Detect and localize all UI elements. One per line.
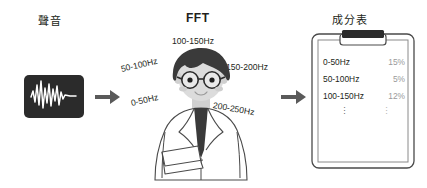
right-arrow-icon xyxy=(95,88,121,106)
band-percent: 15% xyxy=(388,57,405,67)
diagram-canvas: 聲音 FFT 成分表 100-150Hz 50-100Hz 0-50Hz 150… xyxy=(0,0,427,188)
vertical-ellipsis-icon: ⋮ xyxy=(340,108,349,115)
heading-fft: FFT xyxy=(186,11,210,25)
band-percent: 5% xyxy=(393,74,405,84)
audio-waveform-icon xyxy=(24,75,84,118)
table-row: 0-50Hz 15% xyxy=(323,57,405,74)
vertical-ellipsis-icon: ⋮ xyxy=(382,108,391,115)
table-row: 100-150Hz 12% xyxy=(323,91,405,108)
composition-table-rows: 0-50Hz 15% 50-100Hz 5% 100-150Hz 12% ⋮ ⋮ xyxy=(323,57,405,122)
frequency-label-100-150: 100-150Hz xyxy=(172,36,214,46)
table-row: 50-100Hz 5% xyxy=(323,74,405,91)
flow-arrow-1 xyxy=(95,88,121,106)
table-continuation-row: ⋮ ⋮ xyxy=(323,108,405,122)
scientist-with-glasses-illustration xyxy=(141,46,261,188)
band-label: 50-100Hz xyxy=(323,74,359,84)
band-label: 100-150Hz xyxy=(323,91,364,101)
flow-arrow-2 xyxy=(281,88,307,106)
band-percent: 12% xyxy=(388,91,405,101)
composition-table-clipboard: 0-50Hz 15% 50-100Hz 5% 100-150Hz 12% ⋮ ⋮ xyxy=(311,30,415,170)
heading-sound: 聲音 xyxy=(38,12,62,28)
scientist-illustration xyxy=(141,46,261,188)
band-label: 0-50Hz xyxy=(323,57,350,67)
audio-waveform-card xyxy=(24,75,84,118)
right-arrow-icon xyxy=(281,88,307,106)
heading-composition-table: 成分表 xyxy=(332,11,368,27)
